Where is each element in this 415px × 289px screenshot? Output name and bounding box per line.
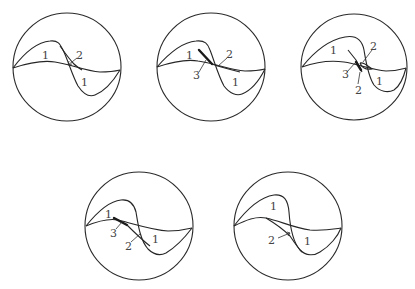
label: 1	[105, 208, 112, 221]
label: 2	[268, 234, 275, 247]
label: 2	[370, 40, 377, 53]
label: 1	[42, 49, 49, 62]
flat-curve	[302, 61, 406, 71]
leader-2-bottom	[358, 72, 360, 84]
label: 1	[376, 75, 383, 88]
label: 3	[342, 68, 349, 81]
flat-curve	[13, 61, 120, 72]
label: 1	[81, 76, 88, 89]
label: 2	[226, 48, 233, 61]
circle-outline	[301, 14, 407, 120]
circle-outline	[13, 13, 121, 121]
panel-d: 1 3 2 1	[85, 172, 193, 280]
label: 1	[330, 44, 337, 57]
s-curve	[13, 41, 120, 96]
s-curve	[157, 41, 265, 95]
label: 3	[110, 227, 117, 240]
circle-outline	[234, 172, 342, 280]
panel-a: 1 2 1	[13, 13, 121, 121]
label: 1	[232, 76, 239, 89]
label: 1	[270, 200, 277, 213]
label: 1	[186, 49, 193, 62]
label: 1	[304, 235, 311, 248]
panel-c: 1 2 3 2 1	[301, 14, 407, 120]
flat-curve	[234, 217, 341, 230]
s-curve	[86, 200, 192, 255]
arrow-2	[131, 234, 140, 242]
panel-e: 1 2 1	[234, 172, 342, 280]
panel-b: 1 2 3 1	[157, 13, 265, 121]
label: 2	[125, 240, 132, 253]
label: 1	[152, 233, 159, 246]
label: 2	[76, 49, 83, 62]
circle-outline	[157, 13, 265, 121]
label: 2	[355, 84, 362, 97]
diagram-canvas: 1 2 1 1 2 3 1 1 2 3 2 1	[0, 0, 415, 289]
label: 3	[193, 69, 200, 82]
